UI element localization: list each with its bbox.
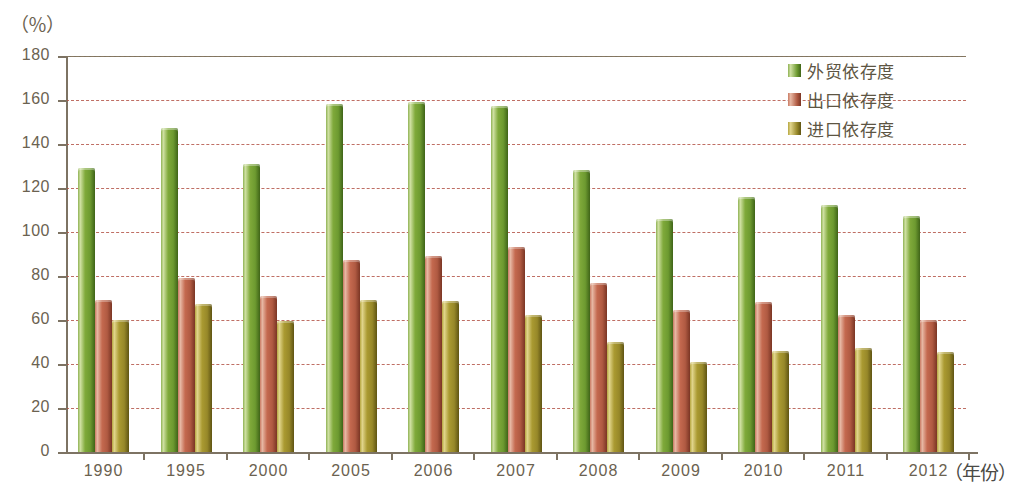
legend-label: 出口依存度 xyxy=(807,87,895,112)
legend-item: 外贸依存度 xyxy=(788,58,895,83)
x-axis-line xyxy=(66,452,978,454)
y-axis-label: 40 xyxy=(0,354,50,372)
y-axis-label: 100 xyxy=(0,222,50,240)
x-axis-title: （年份） xyxy=(944,458,1016,485)
bar xyxy=(425,256,442,452)
bar xyxy=(78,168,95,452)
bar xyxy=(112,320,129,452)
bar xyxy=(607,342,624,452)
bar xyxy=(95,300,112,452)
bar xyxy=(656,219,673,452)
x-axis-tick xyxy=(308,452,310,460)
x-axis-tick xyxy=(226,452,228,460)
bar xyxy=(442,301,459,452)
bar xyxy=(277,321,294,452)
bar xyxy=(738,197,755,452)
bar xyxy=(755,302,772,452)
bar xyxy=(525,315,542,453)
x-axis-tick xyxy=(473,452,475,460)
x-axis-tick xyxy=(638,452,640,460)
x-axis-tick xyxy=(803,452,805,460)
legend-swatch-icon xyxy=(788,64,801,77)
bar xyxy=(772,351,789,452)
legend-item: 出口依存度 xyxy=(788,87,895,112)
bar xyxy=(178,278,195,452)
legend-item: 进口依存度 xyxy=(788,116,895,141)
bar xyxy=(491,106,508,453)
y-axis-label: 140 xyxy=(0,134,50,152)
y-axis-label: 80 xyxy=(0,266,50,284)
bar xyxy=(673,310,690,452)
legend-label: 外贸依存度 xyxy=(807,58,895,83)
legend-swatch-icon xyxy=(788,93,801,106)
bar xyxy=(343,260,360,453)
x-axis-tick xyxy=(721,452,723,460)
bar xyxy=(903,216,920,453)
bar xyxy=(195,304,212,453)
bar xyxy=(161,128,178,453)
bar xyxy=(243,164,260,452)
y-axis-tick xyxy=(58,452,67,454)
bar xyxy=(508,247,525,452)
x-axis-tick xyxy=(143,452,145,460)
y-axis-label: 120 xyxy=(0,178,50,196)
bar xyxy=(920,320,937,452)
bar xyxy=(260,296,277,452)
bar-chart: （％） 020406080100120140160180 19901995200… xyxy=(0,0,1024,486)
bar xyxy=(855,348,872,453)
y-axis-unit-label: （％） xyxy=(10,10,64,37)
bar xyxy=(360,300,377,452)
bar xyxy=(326,104,343,452)
x-axis-tick xyxy=(556,452,558,460)
bar xyxy=(937,352,954,452)
legend-label: 进口依存度 xyxy=(807,116,895,141)
y-axis-label: 180 xyxy=(0,46,50,64)
bar xyxy=(573,170,590,452)
x-axis-tick xyxy=(391,452,393,460)
bar xyxy=(838,315,855,453)
bar xyxy=(690,362,707,452)
legend-swatch-icon xyxy=(788,122,801,135)
bar xyxy=(590,283,607,452)
bar xyxy=(821,205,838,453)
bar xyxy=(408,102,425,452)
y-axis-label: 160 xyxy=(0,90,50,108)
x-axis-tick xyxy=(886,452,888,460)
y-axis-label: 60 xyxy=(0,310,50,328)
y-axis-label: 20 xyxy=(0,398,50,416)
legend: 外贸依存度出口依存度进口依存度 xyxy=(788,58,895,141)
y-axis-label: 0 xyxy=(0,442,50,460)
